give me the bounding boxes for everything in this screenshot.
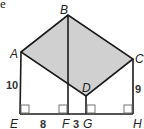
label-f: F (62, 117, 70, 129)
partial-text-fragment: e (0, 0, 6, 11)
label-d: D (82, 81, 91, 95)
right-angle-e-icon (21, 105, 29, 113)
label-a: A (9, 47, 18, 61)
label-e: E (10, 117, 19, 129)
shaded-quadrilateral-abcd (21, 15, 133, 96)
right-angle-g-icon (87, 105, 95, 113)
measure-ef: 8 (40, 118, 46, 129)
measure-ae: 10 (6, 79, 18, 91)
label-b: B (60, 3, 68, 17)
geometry-diagram: e B A C D E F G H 10 8 3 9 (0, 0, 144, 129)
measure-ch: 9 (135, 83, 141, 95)
label-c: C (135, 52, 144, 66)
right-angle-markers (21, 105, 132, 113)
label-g: G (83, 117, 92, 129)
right-angle-h-icon (124, 105, 132, 113)
label-h: H (133, 117, 142, 129)
measure-fg: 3 (73, 118, 79, 129)
right-angle-f-icon (59, 105, 67, 113)
